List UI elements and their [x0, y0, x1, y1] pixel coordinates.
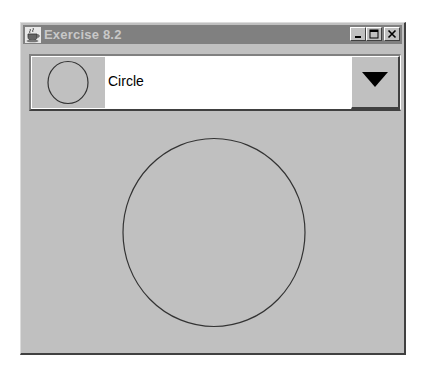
close-button[interactable] — [384, 27, 400, 41]
minimize-icon — [353, 25, 363, 43]
title-bar[interactable]: Exercise 8.2 — [23, 25, 402, 44]
combo-dropdown-button[interactable] — [351, 56, 400, 109]
combo-selected-label: Circle — [108, 73, 144, 89]
combo-item-icon-cell — [32, 57, 105, 108]
window-controls — [350, 27, 400, 41]
maximize-icon — [369, 25, 379, 43]
drawing-canvas — [21, 115, 404, 353]
circle-icon — [32, 94, 105, 111]
app-window: Exercise 8.2 — [20, 22, 406, 355]
triangle-down-icon — [362, 72, 388, 92]
shape-combo-box[interactable]: Circle — [29, 54, 401, 111]
minimize-button[interactable] — [350, 27, 366, 41]
close-icon — [387, 25, 397, 43]
maximize-button[interactable] — [366, 27, 382, 41]
window-title: Exercise 8.2 — [44, 27, 122, 42]
drawn-circle-shape — [21, 115, 404, 353]
java-coffee-cup-icon[interactable] — [25, 27, 41, 43]
